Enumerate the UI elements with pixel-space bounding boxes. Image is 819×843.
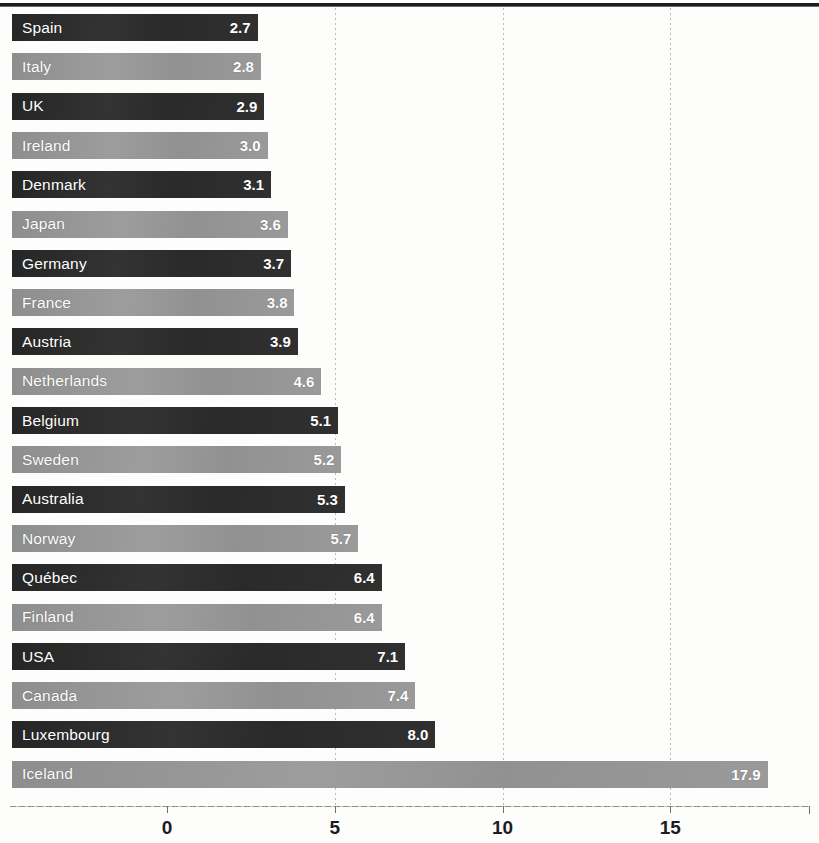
bar-row: USA7.1 <box>0 637 819 676</box>
bar[interactable]: UK2.9 <box>12 93 264 120</box>
bar-row: Germany3.7 <box>0 244 819 283</box>
plot-area: Spain2.7Italy2.8UK2.9Ireland3.0Denmark3.… <box>0 0 819 800</box>
bar-value-label: 2.9 <box>236 99 257 114</box>
bar[interactable]: Germany3.7 <box>12 250 291 277</box>
bar-row: Finland6.4 <box>0 598 819 637</box>
bar[interactable]: Netherlands4.6 <box>12 368 321 395</box>
bar-row: Luxembourg8.0 <box>0 715 819 754</box>
bar-value-label: 5.7 <box>330 531 351 546</box>
bar-category-label: Australia <box>22 491 84 507</box>
x-axis-tick-label-0: 0 <box>162 818 173 837</box>
bar-row: Italy2.8 <box>0 47 819 86</box>
bar-chart: Spain2.7Italy2.8UK2.9Ireland3.0Denmark3.… <box>0 0 819 843</box>
bar[interactable]: Australia5.3 <box>12 486 345 513</box>
bar-category-label: Denmark <box>22 177 86 193</box>
bar[interactable]: France3.8 <box>12 289 294 316</box>
bar-row: Japan3.6 <box>0 205 819 244</box>
bar-value-label: 6.4 <box>354 570 375 585</box>
bar-row: Canada7.4 <box>0 676 819 715</box>
bar[interactable]: Italy2.8 <box>12 53 261 80</box>
bar-category-label: Norway <box>22 531 75 547</box>
x-axis-tick-label-15: 15 <box>660 818 681 837</box>
bar[interactable]: Japan3.6 <box>12 211 288 238</box>
bar-row: Belgium5.1 <box>0 401 819 440</box>
bar-row: Australia5.3 <box>0 480 819 519</box>
bar-value-label: 2.8 <box>233 59 254 74</box>
bar[interactable]: Denmark3.1 <box>12 171 271 198</box>
bar[interactable]: Ireland3.0 <box>12 132 268 159</box>
bar[interactable]: Finland6.4 <box>12 604 382 631</box>
bar-value-label: 3.8 <box>267 295 288 310</box>
bar-value-label: 5.2 <box>314 452 335 467</box>
x-axis-tick-5 <box>335 806 336 813</box>
bar-category-label: Netherlands <box>22 373 107 389</box>
bar[interactable]: Spain2.7 <box>12 14 258 41</box>
x-axis-tick-label-10: 10 <box>492 818 513 837</box>
bar-category-label: Belgium <box>22 413 79 429</box>
x-axis-end-tick <box>809 806 810 814</box>
x-axis-tick-label-5: 5 <box>329 818 340 837</box>
bar[interactable]: Iceland17.9 <box>12 761 768 788</box>
bar-category-label: Québec <box>22 570 77 586</box>
bar-row: Spain2.7 <box>0 8 819 47</box>
bar-value-label: 17.9 <box>731 767 760 782</box>
bar-row: Québec6.4 <box>0 558 819 597</box>
bar[interactable]: Norway5.7 <box>12 525 358 552</box>
bar-row: Norway5.7 <box>0 519 819 558</box>
bar[interactable]: Austria3.9 <box>12 328 298 355</box>
bar-category-label: Spain <box>22 20 62 36</box>
bar-value-label: 6.4 <box>354 610 375 625</box>
bar-category-label: Germany <box>22 256 87 272</box>
bar-category-label: Canada <box>22 688 77 704</box>
bar-row: Austria3.9 <box>0 322 819 361</box>
bar-row: France3.8 <box>0 283 819 322</box>
bar-category-label: Austria <box>22 334 71 350</box>
bar[interactable]: Sweden5.2 <box>12 446 341 473</box>
bar-category-label: Iceland <box>22 766 73 782</box>
bar[interactable]: Luxembourg8.0 <box>12 721 435 748</box>
x-axis-line <box>10 806 810 807</box>
bar-category-label: USA <box>22 649 54 665</box>
x-axis-tick-0 <box>167 806 168 813</box>
bar-category-label: Japan <box>22 216 65 232</box>
bar-value-label: 4.6 <box>293 374 314 389</box>
bar-category-label: Finland <box>22 609 74 625</box>
bar[interactable]: Canada7.4 <box>12 682 415 709</box>
bar-value-label: 5.1 <box>310 413 331 428</box>
bar-row: Netherlands4.6 <box>0 362 819 401</box>
bar[interactable]: Québec6.4 <box>12 564 382 591</box>
x-axis-tick-15 <box>670 806 671 813</box>
bar-value-label: 3.7 <box>263 256 284 271</box>
bar[interactable]: Belgium5.1 <box>12 407 338 434</box>
bar[interactable]: USA7.1 <box>12 643 405 670</box>
bar-row: Ireland3.0 <box>0 126 819 165</box>
bar-category-label: Italy <box>22 59 51 75</box>
bar-value-label: 3.0 <box>240 138 261 153</box>
bar-value-label: 8.0 <box>408 727 429 742</box>
bar-value-label: 3.9 <box>270 334 291 349</box>
bar-category-label: France <box>22 295 71 311</box>
bar-value-label: 5.3 <box>317 492 338 507</box>
x-axis-tick-10 <box>503 806 504 813</box>
bar-category-label: UK <box>22 98 44 114</box>
bar-value-label: 3.6 <box>260 217 281 232</box>
bar-row: UK2.9 <box>0 87 819 126</box>
bar-row: Iceland17.9 <box>0 755 819 794</box>
bar-value-label: 7.1 <box>377 649 398 664</box>
bar-row: Denmark3.1 <box>0 165 819 204</box>
bar-row: Sweden5.2 <box>0 440 819 479</box>
bar-category-label: Luxembourg <box>22 727 110 743</box>
bar-value-label: 7.4 <box>387 688 408 703</box>
bar-value-label: 2.7 <box>230 20 251 35</box>
bar-value-label: 3.1 <box>243 177 264 192</box>
bar-category-label: Ireland <box>22 138 70 154</box>
bar-category-label: Sweden <box>22 452 79 468</box>
